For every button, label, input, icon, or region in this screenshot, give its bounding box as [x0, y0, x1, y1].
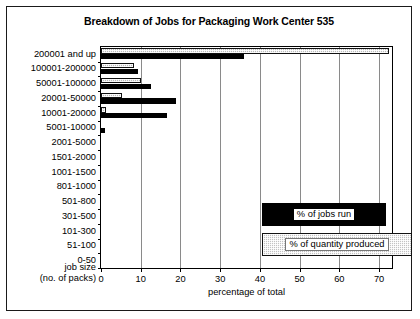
y-axis-category-label: 1501-2000: [52, 153, 96, 162]
y-axis-category-label: 10001-20000: [41, 109, 96, 118]
bar-quantity-produced: [101, 107, 106, 112]
category-row: 2001-5000: [101, 135, 392, 150]
x-axis-tick: [260, 268, 261, 272]
x-axis-tick-label: 30: [215, 274, 225, 284]
y-axis-category-label: 2001-5000: [52, 138, 96, 147]
plot-area: 200001 and up100001-20000050001-10000020…: [100, 46, 393, 269]
legend-item-quantity-produced[interactable]: % of quantity produced: [262, 233, 412, 256]
category-row: 100001-200000: [101, 62, 392, 77]
x-axis-tick: [101, 268, 102, 272]
bar-quantity-produced: [101, 93, 122, 98]
y-axis-label-line1: job size: [40, 262, 96, 273]
y-axis-label: job size (no. of packs): [40, 262, 96, 283]
bar-quantity-produced: [101, 78, 141, 83]
y-axis-category-label: 100001-200000: [31, 64, 96, 73]
x-axis-label: percentage of total: [101, 287, 392, 297]
legend-label-jobs-run: % of jobs run: [294, 209, 354, 220]
bar-jobs-run: [101, 54, 244, 59]
y-axis-category-label: 801-1000: [57, 182, 96, 191]
y-axis-category-label: 101-300: [62, 227, 96, 236]
bar-jobs-run: [101, 128, 105, 133]
chart-title: Breakdown of Jobs for Packaging Work Cen…: [7, 15, 411, 27]
y-axis-category-label: 50001-100000: [36, 79, 96, 88]
y-axis-category-label: 51-100: [67, 241, 96, 250]
category-row: 50001-100000: [101, 76, 392, 91]
bar-jobs-run: [101, 113, 167, 118]
category-row: 200001 and up: [101, 47, 392, 62]
y-axis-category-label: 20001-50000: [41, 94, 96, 103]
x-axis-tick-label: 20: [175, 274, 185, 284]
category-row: 20001-50000: [101, 91, 392, 106]
x-axis-tick: [180, 268, 181, 272]
x-axis-tick: [141, 268, 142, 272]
category-row: 10001-20000: [101, 106, 392, 121]
category-row: 1001-1500: [101, 165, 392, 180]
bar-jobs-run: [101, 69, 138, 74]
bar-jobs-run: [101, 84, 151, 89]
bar-quantity-produced: [101, 48, 389, 53]
x-axis-tick: [220, 268, 221, 272]
x-axis-tick-label: 0: [98, 274, 103, 284]
chart-figure: Breakdown of Jobs for Packaging Work Cen…: [6, 6, 412, 311]
y-axis-label-line2: (no. of packs): [40, 273, 96, 284]
category-row: 1501-2000: [101, 150, 392, 165]
category-row: 5001-10000: [101, 121, 392, 136]
x-axis-tick-label: 70: [374, 274, 384, 284]
y-axis-category-label: 301-500: [62, 212, 96, 221]
y-axis-category-label: 1001-1500: [52, 168, 96, 177]
y-axis-category-label: 501-800: [62, 197, 96, 206]
bar-quantity-produced: [101, 63, 134, 68]
x-axis-tick: [379, 268, 380, 272]
x-axis-tick-label: 60: [334, 274, 344, 284]
x-axis-tick-label: 40: [255, 274, 265, 284]
bar-jobs-run: [101, 98, 176, 103]
category-row: 801-1000: [101, 180, 392, 195]
x-axis-tick: [300, 268, 301, 272]
y-axis-category-label: 200001 and up: [34, 50, 96, 59]
x-axis-tick-label: 50: [294, 274, 304, 284]
legend-label-quantity-produced: % of quantity produced: [285, 238, 388, 251]
y-axis-category-label: 5001-10000: [46, 123, 96, 132]
x-axis-tick: [339, 268, 340, 272]
x-axis-tick-label: 10: [136, 274, 146, 284]
legend-item-jobs-run[interactable]: % of jobs run: [262, 203, 386, 226]
